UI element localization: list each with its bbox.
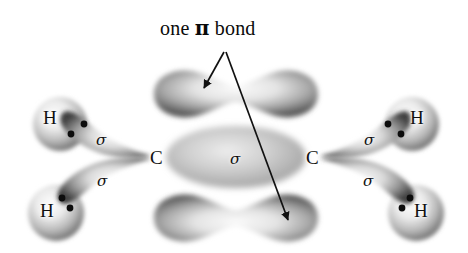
sigma-label-bottom-left: σ (97, 174, 107, 189)
pi-symbol: π (195, 16, 210, 40)
figure-canvas: one π bond C C H H H H σ σ σ σ σ (0, 0, 468, 253)
atom-label-hydrogen-bottom-right: H (414, 201, 428, 220)
sigma-label-top-left: σ (96, 133, 106, 148)
atom-label-carbon-right: C (306, 148, 319, 167)
annotation-label: one π bond (160, 18, 256, 38)
atom-label-hydrogen-top-left: H (43, 108, 57, 127)
atom-label-carbon-left: C (150, 148, 163, 167)
sigma-label-top-right: σ (364, 133, 374, 148)
atom-label-hydrogen-top-right: H (410, 108, 424, 127)
pi-lobe-bottom (154, 195, 318, 242)
sigma-label-bottom-right: σ (363, 174, 373, 189)
sigma-label-center: σ (230, 152, 240, 167)
atom-label-hydrogen-bottom-left: H (40, 201, 54, 220)
annotation-prefix: one (160, 17, 195, 39)
annotation-suffix: bond (210, 17, 256, 39)
